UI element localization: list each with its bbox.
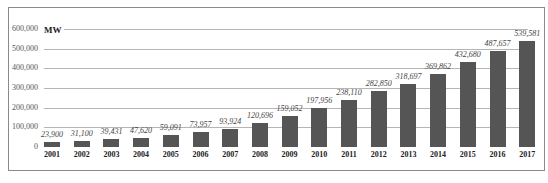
value-label: 369,862 (418, 62, 458, 71)
value-label: 159,052 (270, 104, 310, 113)
x-tick-label: 2007 (215, 150, 245, 159)
x-tick-label: 2005 (156, 150, 186, 159)
bar-2015 (460, 62, 476, 147)
x-tick-label: 2010 (304, 150, 334, 159)
bar-2001 (44, 142, 60, 147)
bar-2012 (371, 91, 387, 147)
x-tick-label: 2001 (37, 150, 67, 159)
y-tick-label: 600,000 (4, 24, 38, 33)
x-tick-label: 2017 (512, 150, 542, 159)
bar-2014 (430, 74, 446, 147)
bar-2011 (341, 100, 357, 147)
value-label: 238,110 (329, 88, 369, 97)
y-tick-label: 400,000 (4, 63, 38, 72)
bar-2002 (74, 141, 90, 147)
x-tick-label: 2015 (453, 150, 483, 159)
y-axis-unit-label: MW (44, 25, 64, 35)
bar-2016 (490, 51, 506, 147)
bar-2005 (163, 135, 179, 147)
x-tick-label: 2009 (275, 150, 305, 159)
x-tick-label: 2011 (334, 150, 364, 159)
gridline (44, 29, 528, 30)
bar-2004 (133, 138, 149, 147)
x-tick-label: 2002 (67, 150, 97, 159)
x-tick-label: 2006 (186, 150, 216, 159)
gridline (44, 88, 528, 89)
bar-2003 (103, 139, 119, 147)
y-tick-label: 0 (4, 142, 38, 151)
bar-2010 (311, 108, 327, 147)
value-label: 539,581 (507, 29, 547, 38)
bar-2017 (519, 41, 535, 147)
x-tick-label: 2008 (245, 150, 275, 159)
y-tick-label: 200,000 (4, 103, 38, 112)
x-tick-label: 2014 (423, 150, 453, 159)
x-tick-label: 2003 (96, 150, 126, 159)
x-tick-label: 2012 (364, 150, 394, 159)
x-tick-label: 2016 (483, 150, 513, 159)
x-tick-label: 2013 (393, 150, 423, 159)
bar-chart: 600,000500,000400,000300,000200,000100,0… (0, 0, 548, 183)
bar-2007 (222, 129, 238, 147)
value-label: 318,697 (388, 72, 428, 81)
bar-2006 (193, 132, 209, 147)
value-label: 432,680 (448, 50, 488, 59)
bar-2009 (282, 116, 298, 147)
y-tick-label: 500,000 (4, 44, 38, 53)
value-label: 487,657 (478, 39, 518, 48)
bar-2013 (400, 84, 416, 147)
bar-2008 (252, 123, 268, 147)
value-label: 197,956 (299, 96, 339, 105)
x-tick-label: 2004 (126, 150, 156, 159)
y-tick-label: 300,000 (4, 83, 38, 92)
